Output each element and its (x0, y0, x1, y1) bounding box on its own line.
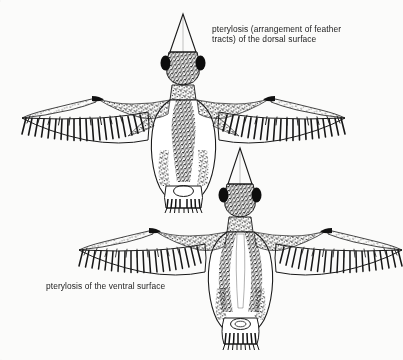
dorsal-head (161, 52, 206, 85)
ventral-shoulder-left (153, 230, 227, 251)
ventral-tail-fan (222, 318, 259, 350)
dorsal-mantle-left (96, 98, 170, 119)
dorsal-wing-right (218, 96, 345, 143)
dorsal-mantle-right (197, 98, 271, 119)
ventral-eye-patch-right (252, 188, 262, 203)
ventral-wing-right (275, 228, 402, 275)
bird-diagram-svg (0, 0, 403, 360)
ventral-shoulder-right (254, 230, 328, 251)
dorsal-tail-fan (165, 186, 203, 214)
ventral-throat (227, 217, 253, 232)
ventral-head (219, 184, 262, 217)
ventral-beak (228, 148, 252, 184)
caption-dorsal: pterylosis (arrangement of feather tract… (212, 24, 377, 44)
caption-ventral: pterylosis of the ventral surface (46, 281, 246, 291)
ventral-apterium (236, 234, 245, 308)
dorsal-eye-patch-left (161, 56, 171, 71)
ventral-wing-left (79, 228, 206, 275)
dorsal-eye-patch-right (196, 56, 206, 71)
ventral-eye-patch-left (219, 188, 229, 203)
ventral-bird (79, 148, 402, 350)
dorsal-wing-left (22, 96, 149, 143)
dorsal-beak (170, 14, 196, 52)
dorsal-neck (170, 85, 196, 100)
pterylosis-figure: pterylosis (arrangement of feather tract… (0, 0, 403, 360)
